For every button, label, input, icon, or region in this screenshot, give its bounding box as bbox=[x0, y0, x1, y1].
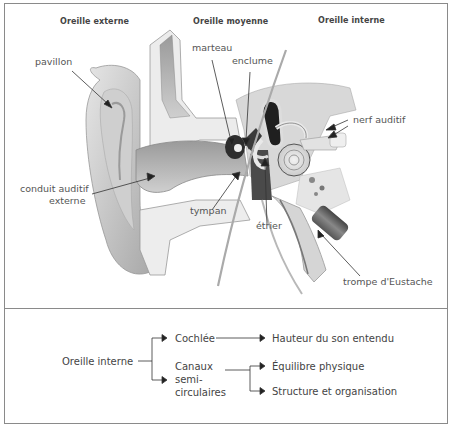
flow-output-hauteur-son: Hauteur du son entendu bbox=[272, 332, 394, 345]
label-tympan: tympan bbox=[190, 205, 226, 216]
flow-output-structure: Structure et organisation bbox=[272, 385, 397, 398]
label-nerf-auditif: nerf auditif bbox=[353, 114, 405, 125]
label-pavillon: pavillon bbox=[35, 56, 72, 67]
flow-node-canaux-line2: semi- bbox=[175, 373, 203, 386]
label-marteau: marteau bbox=[192, 42, 232, 53]
label-trompe-eustache: trompe d'Eustache bbox=[343, 276, 433, 287]
label-etrier: étrier bbox=[256, 220, 282, 231]
label-conduit-line1: conduit auditif bbox=[20, 183, 89, 194]
flow-output-equilibre: Équilibre physique bbox=[272, 360, 364, 373]
flow-node-canaux-line3: circulaires bbox=[175, 386, 226, 399]
flow-node-cochlee: Cochlée bbox=[175, 332, 215, 345]
flow-node-canaux-line1: Canaux bbox=[175, 360, 213, 373]
label-enclume: enclume bbox=[232, 55, 273, 66]
flow-root-oreille-interne: Oreille interne bbox=[62, 355, 133, 368]
label-conduit-line2: externe bbox=[49, 195, 85, 206]
